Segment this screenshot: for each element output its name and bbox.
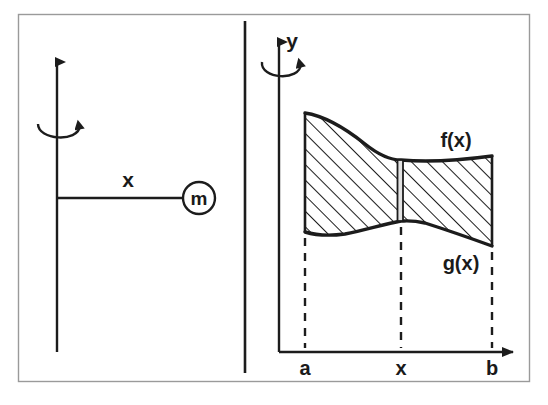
lower-curve-label: g(x) bbox=[443, 252, 480, 274]
rotation-arrow-icon bbox=[262, 62, 301, 76]
representative-strip bbox=[398, 160, 404, 221]
tick-label-x: x bbox=[395, 357, 406, 379]
figure-root: x m bbox=[0, 0, 548, 405]
mass-label: m bbox=[191, 188, 208, 209]
left-panel-point-mass: x m bbox=[38, 62, 215, 352]
tick-label-b: b bbox=[486, 357, 498, 379]
radius-label: x bbox=[122, 168, 134, 191]
right-panel-area-between-curves: y f(x) g(x) a x b bbox=[262, 29, 513, 379]
upper-curve-label: f(x) bbox=[440, 129, 471, 151]
rotation-arrow-icon bbox=[38, 124, 80, 137]
y-axis-label: y bbox=[286, 29, 298, 52]
figure-svg: x m bbox=[0, 0, 548, 405]
tick-label-a: a bbox=[299, 357, 311, 379]
